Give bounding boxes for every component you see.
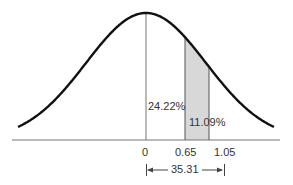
normal-distribution-chart: 24.22% 11.09% 0 0.65 1.05 35.31 [0,0,293,185]
span-left-arrowhead [147,168,153,173]
tick-label-065: 0.65 [175,147,196,158]
span-right-arrowhead [217,168,223,173]
region-label-0-to-065: 24.22% [148,101,185,112]
span-label: 35.31 [171,164,199,175]
tick-label-0: 0 [142,147,148,158]
tick-label-105: 1.05 [214,147,235,158]
region-label-065-to-105: 11.09% [189,117,226,128]
